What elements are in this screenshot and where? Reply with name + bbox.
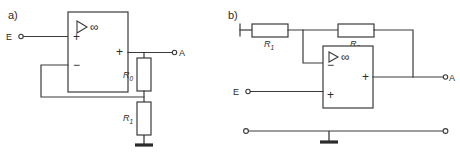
panel-a-noninverting-input-sign: +: [73, 30, 80, 44]
panel-b-resistor-r0-body: [338, 24, 374, 37]
panel-b-feedback-return-wire: [374, 30, 413, 77]
panel-a-label: a): [8, 9, 18, 21]
panel-b-input-terminal-node[interactable]: [246, 89, 250, 93]
panel-a-resistor-r1-subscript: 1: [130, 118, 134, 125]
panel-a-inverting-input-sign: −: [73, 58, 80, 72]
circuit-figure: a) E ∞ + − + A R 0: [0, 0, 460, 153]
panel-b-noninverting-input-sign: +: [327, 88, 334, 102]
panel-b-label: b): [228, 9, 238, 21]
panel-a-input-terminal-node[interactable]: [19, 34, 23, 38]
panel-b-output-terminal-label: A: [449, 73, 455, 83]
panel-b-inverting-node-wire: [303, 30, 323, 63]
panel-a-resistor-r1-body: [137, 102, 151, 135]
panel-a: a) E ∞ + − + A R 0: [6, 9, 185, 145]
panel-a-gain-symbol: ∞: [90, 20, 99, 34]
circuit-svg: a) E ∞ + − + A R 0: [0, 0, 460, 153]
panel-b-input-terminal-label: E: [233, 87, 239, 97]
panel-b-gain-symbol: ∞: [341, 50, 350, 64]
panel-a-input-terminal-label: E: [6, 32, 12, 42]
panel-a-output-terminal-label: A: [179, 48, 185, 58]
panel-b: b) R 1 R 0 ∞ − +: [228, 9, 455, 142]
panel-b-resistor-r1-subscript: 1: [271, 44, 275, 51]
panel-b-rail-right-terminal[interactable]: [443, 129, 448, 134]
panel-b-output-terminal-node[interactable]: [443, 75, 447, 79]
panel-b-resistor-r1-body: [252, 24, 288, 37]
panel-b-rail-left-terminal[interactable]: [244, 129, 249, 134]
panel-a-output-sign: +: [116, 45, 123, 59]
panel-a-resistor-r0-subscript: 0: [130, 75, 134, 82]
panel-a-output-terminal-node[interactable]: [172, 50, 176, 54]
panel-a-resistor-r0-body: [137, 58, 151, 91]
panel-b-output-sign: +: [362, 70, 369, 84]
panel-b-inverting-input-sign: −: [327, 58, 334, 72]
